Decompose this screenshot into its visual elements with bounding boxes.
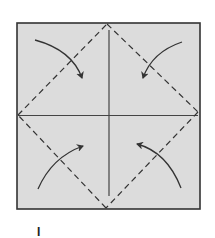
- step-label: I: [37, 226, 40, 238]
- origami-diagram: [0, 0, 215, 238]
